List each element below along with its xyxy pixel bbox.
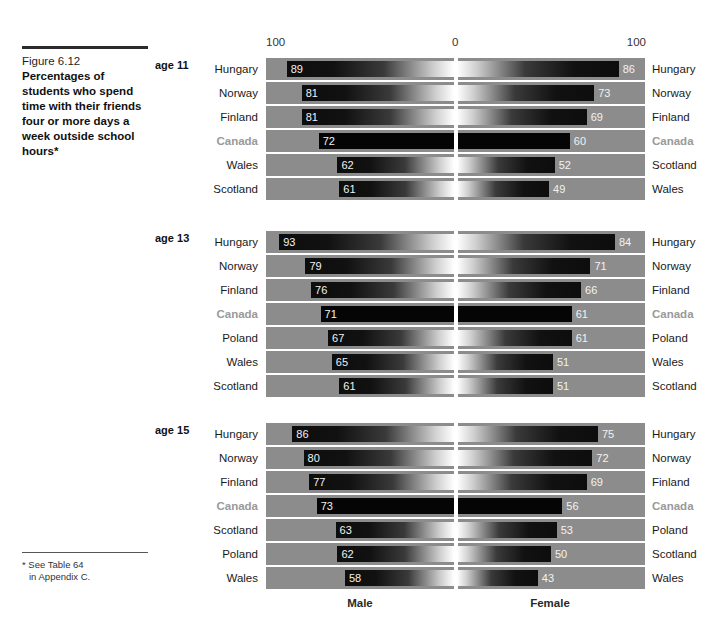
male-value-label: 72 [323,130,335,152]
male-bar [336,522,454,538]
female-bar-fill [457,378,553,394]
male-bar [311,282,454,298]
male-bar-fill [328,330,454,346]
female-bar [457,474,587,490]
female-half: 61 [457,327,645,349]
female-value-label: 51 [557,375,569,397]
chart-row: CanadaCanada7260 [0,129,728,153]
female-bar [457,498,562,514]
male-half: 61 [266,178,454,200]
chart-row: ScotlandScotland6151 [0,374,728,398]
female-half: 56 [457,495,645,517]
male-bar-fill [332,354,454,370]
female-bar-fill [457,330,572,346]
row-label-left: Finland [170,278,258,302]
row-label-right: Finland [652,278,728,302]
female-bar [457,330,572,346]
male-bar [345,570,454,586]
female-value-label: 60 [574,130,586,152]
male-bar-fill [336,522,454,538]
female-bar-fill [457,474,587,490]
female-bar-fill [457,258,590,274]
female-half: 61 [457,303,645,325]
female-bar [457,181,549,197]
male-half: 62 [266,154,454,176]
male-value-label: 89 [291,58,303,80]
female-value-label: 56 [566,495,578,517]
female-bar [457,85,594,101]
male-bar [305,258,454,274]
female-value-label: 71 [594,255,606,277]
row-label-left: Hungary [170,230,258,254]
male-bar-fill [309,474,454,490]
panel-rows: HungaryHungary8986NorwayNorway8173Finlan… [0,57,728,201]
male-bar [339,378,454,394]
male-bar-fill [337,157,454,173]
male-bar-fill [302,85,454,101]
female-value-label: 86 [623,58,635,80]
male-bar [302,109,454,125]
female-value-label: 69 [591,106,603,128]
male-bar [339,181,454,197]
row-label-right: Wales [652,177,728,201]
row-label-left: Poland [170,326,258,350]
female-bar [457,570,538,586]
row-label-right: Wales [652,566,728,590]
male-bar-fill [279,234,454,250]
male-half: 76 [266,279,454,301]
female-value-label: 84 [619,231,631,253]
chart-row: WalesScotland6252 [0,153,728,177]
female-half: 69 [457,106,645,128]
male-value-label: 80 [308,447,320,469]
male-half: 79 [266,255,454,277]
male-bar-fill [292,426,454,442]
row-label-left: Norway [170,81,258,105]
male-bar-fill [311,282,454,298]
male-half: 81 [266,106,454,128]
female-half: 66 [457,279,645,301]
row-label-left: Wales [170,153,258,177]
male-half: 63 [266,519,454,541]
female-bar-fill [457,109,587,125]
male-half: 73 [266,495,454,517]
axis-scale: 100 0 100 [0,34,728,50]
center-axis-line [455,230,458,398]
female-bar-fill [457,354,553,370]
female-half: 52 [457,154,645,176]
female-bar [457,234,615,250]
row-label-right: Poland [652,518,728,542]
row-label-left: Scotland [170,177,258,201]
male-bar-fill [339,181,454,197]
row-label-right: Poland [652,326,728,350]
female-bar-fill [457,282,581,298]
chart-row: FinlandFinland7666 [0,278,728,302]
male-half: 81 [266,82,454,104]
male-half: 67 [266,327,454,349]
female-half: 69 [457,471,645,493]
row-label-left: Finland [170,105,258,129]
male-half: 62 [266,543,454,565]
age-panel-2: age 13HungaryHungary9384NorwayNorway7971… [0,230,728,398]
male-bar [321,306,454,322]
row-label-right: Hungary [652,57,728,81]
female-value-label: 61 [576,303,588,325]
male-bar [337,546,454,562]
chart-row: CanadaCanada7356 [0,494,728,518]
female-bar [457,450,592,466]
female-value-label: 43 [542,567,554,589]
female-bar-fill [457,570,538,586]
male-value-label: 76 [315,279,327,301]
row-label-left: Canada [170,302,258,326]
chart-row: NorwayNorway7971 [0,254,728,278]
female-half: 73 [457,82,645,104]
female-value-label: 73 [598,82,610,104]
male-half: 86 [266,423,454,445]
chart-row: HungaryHungary9384 [0,230,728,254]
female-half: 49 [457,178,645,200]
row-label-left: Wales [170,350,258,374]
row-label-left: Hungary [170,422,258,446]
row-label-right: Wales [652,350,728,374]
center-axis-line [455,422,458,590]
chart-row: NorwayNorway8173 [0,81,728,105]
female-bar [457,306,572,322]
